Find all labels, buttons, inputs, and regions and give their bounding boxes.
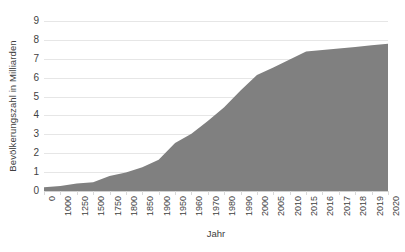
x-tick-label-1250: 1250 [81,196,90,216]
x-tick-label-1980: 1980 [228,196,237,216]
x-tick-label-1800: 1800 [130,196,139,216]
x-tick-mark-1250 [77,191,78,195]
x-tick-label-1970: 1970 [212,196,221,216]
y-tick-label-6: 6 [24,73,39,83]
x-tick-mark-1800 [126,191,127,195]
x-tick-mark-2020 [388,191,389,195]
x-axis-tick-marks [44,191,388,195]
x-tick-label-2020: 2020 [392,196,401,216]
population-area-chart: Bevölkerungszahl in Milliarden 012345678… [0,0,405,252]
x-tick-label-2019: 2019 [376,196,385,216]
x-tick-label-0: 0 [48,196,57,201]
y-tick-label-3: 3 [24,129,39,139]
x-tick-mark-1850 [142,191,143,195]
x-tick-label-2010: 2010 [294,196,303,216]
y-tick-label-0: 0 [24,186,39,196]
x-tick-label-2005: 2005 [277,196,286,216]
y-tick-label-7: 7 [24,54,39,64]
y-tick-label-9: 9 [24,16,39,26]
x-axis-title: Jahr [44,228,388,240]
y-axis-title: Bevölkerungszahl in Milliarden [4,8,22,204]
x-tick-mark-1970 [208,191,209,195]
x-tick-mark-2000 [257,191,258,195]
y-axis-tick-labels: 0123456789 [24,0,39,252]
x-tick-mark-2005 [273,191,274,195]
y-tick-label-5: 5 [24,92,39,102]
x-tick-label-2016: 2016 [326,196,335,216]
x-tick-mark-2015 [306,191,307,195]
y-tick-label-4: 4 [24,110,39,120]
x-tick-label-1950: 1950 [179,196,188,216]
x-tick-mark-1750 [110,191,111,195]
x-tick-label-1000: 1000 [64,196,73,216]
plot-area [44,21,388,191]
x-tick-mark-2019 [372,191,373,195]
x-tick-label-2017: 2017 [343,196,352,216]
x-tick-mark-1950 [175,191,176,195]
x-tick-label-2015: 2015 [310,196,319,216]
x-tick-mark-1000 [60,191,61,195]
x-axis-tick-labels: 0100012501500175018001850190019501960197… [44,196,388,230]
y-tick-label-8: 8 [24,35,39,45]
x-tick-mark-1990 [241,191,242,195]
x-tick-mark-1980 [224,191,225,195]
area-series-weltbevoelkerung [44,21,388,191]
y-tick-label-1: 1 [24,167,39,177]
x-tick-mark-2017 [339,191,340,195]
x-tick-label-2000: 2000 [261,196,270,216]
x-tick-mark-1960 [191,191,192,195]
x-tick-label-1900: 1900 [163,196,172,216]
y-tick-label-2: 2 [24,148,39,158]
x-tick-label-1750: 1750 [114,196,123,216]
x-tick-mark-2018 [355,191,356,195]
x-tick-label-1850: 1850 [146,196,155,216]
x-tick-mark-2016 [322,191,323,195]
x-tick-mark-0 [44,191,45,195]
x-tick-mark-2010 [290,191,291,195]
x-tick-mark-1900 [159,191,160,195]
x-tick-label-1990: 1990 [245,196,254,216]
x-tick-mark-1500 [93,191,94,195]
x-tick-label-1960: 1960 [195,196,204,216]
area-path [44,44,388,191]
x-tick-label-2018: 2018 [359,196,368,216]
x-tick-label-1500: 1500 [97,196,106,216]
